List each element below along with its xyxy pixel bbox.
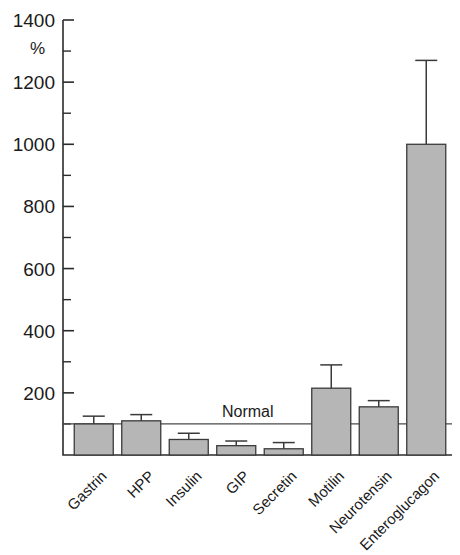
y-axis-unit-label: %: [30, 39, 45, 58]
chart-canvas: 140012001000800600400200%NormalGastrinHP…: [0, 0, 460, 555]
y-axis-tick-label: 1000: [13, 134, 55, 155]
y-axis-tick-label: 200: [23, 383, 55, 404]
bar-insulin[interactable]: [169, 439, 208, 455]
bar-gastrin[interactable]: [74, 424, 113, 455]
x-axis-label-insulin: Insulin: [162, 467, 205, 510]
x-axis-label-hpp: HPP: [124, 467, 158, 501]
bar-motilin[interactable]: [312, 388, 351, 455]
bar-group: [359, 401, 398, 455]
bar-group: [407, 60, 446, 455]
bar-group: [264, 443, 303, 455]
y-axis-tick-label: 1400: [13, 10, 55, 31]
bar-group: [169, 433, 208, 455]
bar-group: [122, 415, 161, 455]
bar-secretin[interactable]: [264, 449, 303, 455]
bar-hpp[interactable]: [122, 421, 161, 455]
x-axis-label-gastrin: Gastrin: [64, 467, 110, 513]
bar-gip[interactable]: [217, 446, 256, 455]
x-axis-label-gip: GIP: [222, 467, 252, 497]
y-axis-tick-label: 1200: [13, 72, 55, 93]
normal-reference-label: Normal: [222, 403, 274, 420]
bar-group: [217, 441, 256, 455]
chart-axes: [63, 20, 452, 455]
bar-chart: 140012001000800600400200%NormalGastrinHP…: [0, 0, 460, 555]
bar-group: [74, 416, 113, 455]
bar-group: [312, 365, 351, 455]
x-axis-label-secretin: Secretin: [249, 467, 300, 518]
x-axis-label-motilin: Motilin: [305, 467, 348, 510]
bar-enteroglucagon[interactable]: [407, 144, 446, 455]
y-axis-tick-label: 400: [23, 321, 55, 342]
bar-neurotensin[interactable]: [359, 407, 398, 455]
y-axis-tick-label: 600: [23, 259, 55, 280]
y-axis-tick-label: 800: [23, 196, 55, 217]
